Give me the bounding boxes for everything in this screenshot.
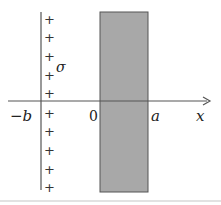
plus-charge-icon: + (44, 12, 55, 27)
plus-charge-icon: + (44, 30, 55, 45)
tick-label-minus-b: −b (10, 107, 32, 125)
plus-charge-icon: + (44, 124, 55, 139)
axis-label-x: x (196, 107, 205, 125)
plus-charge-icon: + (44, 86, 55, 101)
plus-charge-icon: + (44, 143, 55, 158)
sigma-label: σ (56, 59, 66, 75)
tick-label-a: a (151, 107, 160, 125)
tick-label-zero: 0 (89, 108, 98, 124)
plus-charge-icon: + (44, 49, 55, 64)
plus-charges: ++++++++++ (44, 12, 55, 195)
plus-charge-icon: + (44, 106, 55, 121)
plus-charge-icon: + (44, 68, 55, 83)
shaded-slab (100, 12, 148, 192)
plus-charge-icon: + (44, 162, 55, 177)
diagram-canvas: ++++++++++ σ −b 0 a x (0, 0, 221, 205)
plus-charge-icon: + (44, 180, 55, 195)
